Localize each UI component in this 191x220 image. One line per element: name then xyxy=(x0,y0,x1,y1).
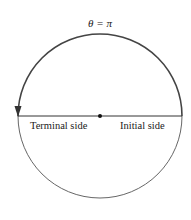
angle-arc xyxy=(18,34,182,116)
initial-side-label: Initial side xyxy=(120,120,165,131)
arrowhead-icon xyxy=(15,106,22,117)
center-point xyxy=(98,114,102,118)
angle-label: θ = π xyxy=(88,17,112,29)
terminal-side-label: Terminal side xyxy=(30,120,88,131)
angle-diagram: θ = π Terminal side Initial side xyxy=(0,0,191,220)
